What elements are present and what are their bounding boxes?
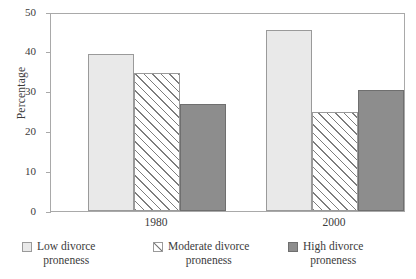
- plot-area: [50, 13, 405, 212]
- bar-1980-high: [180, 104, 226, 211]
- x-tick-label-2000: 2000: [304, 216, 364, 228]
- y-tick-label: 40: [6, 45, 36, 57]
- legend-item-moderate[interactable]: Moderate divorceproneness: [153, 240, 249, 267]
- legend-item-low[interactable]: Low divorceproneness: [22, 240, 95, 267]
- y-tick-label: 30: [6, 85, 36, 97]
- bar-2000-low: [266, 30, 312, 211]
- bar-1980-moderate: [134, 73, 180, 212]
- legend-label-line1: Low divorce: [37, 240, 95, 252]
- legend-label-line2: proneness: [37, 254, 95, 268]
- legend-label-high: High divorceproneness: [303, 240, 363, 267]
- y-tick-label: 10: [6, 165, 36, 177]
- plot-inner: [51, 14, 404, 211]
- legend-label-line2: proneness: [303, 254, 363, 268]
- bar-1980-low: [88, 54, 134, 211]
- legend-label-low: Low divorceproneness: [37, 240, 95, 267]
- legend-item-high[interactable]: High divorceproneness: [288, 240, 363, 267]
- legend-label-line1: High divorce: [303, 240, 363, 252]
- legend-label-line1: Moderate divorce: [168, 240, 249, 252]
- bar-chart-figure: Percentage 01020304050 19802000 Low divo…: [0, 0, 416, 279]
- legend-label-moderate: Moderate divorceproneness: [168, 240, 249, 267]
- y-tick-label: 0: [6, 205, 36, 217]
- legend-swatch-high-icon: [288, 242, 298, 252]
- chart-legend: Low divorcepronenessModerate divorcepron…: [0, 240, 416, 279]
- y-tick-label: 20: [6, 125, 36, 137]
- bar-2000-high: [358, 90, 404, 211]
- legend-swatch-low-icon: [22, 242, 32, 252]
- legend-swatch-moderate-icon: [153, 242, 163, 252]
- legend-label-line2: proneness: [168, 254, 249, 268]
- bar-2000-moderate: [312, 112, 358, 211]
- x-tick-label-1980: 1980: [126, 216, 186, 228]
- y-tick-label: 50: [6, 6, 36, 18]
